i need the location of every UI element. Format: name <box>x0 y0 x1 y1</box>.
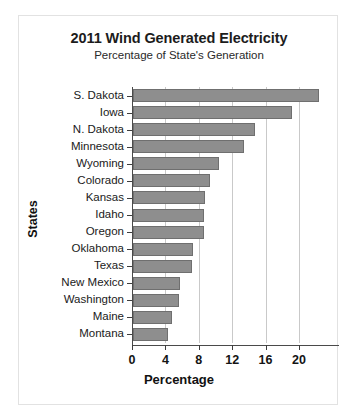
y-axis-tick-label: Oklahoma <box>72 242 124 254</box>
y-axis-tick <box>127 130 132 131</box>
bar <box>133 140 244 153</box>
chart-figure: 2011 Wind Generated Electricity Percenta… <box>18 15 338 405</box>
bar <box>133 191 205 204</box>
y-axis-tick-label: Colorado <box>77 174 124 186</box>
bar <box>133 123 255 136</box>
bar <box>133 328 168 341</box>
chart-title: 2011 Wind Generated Electricity <box>19 30 339 46</box>
y-axis-tick <box>127 198 132 199</box>
y-axis-tick-label: Texas <box>94 259 124 271</box>
y-axis-title: States <box>26 174 40 264</box>
y-axis-tick <box>127 164 132 165</box>
y-axis-tick <box>127 266 132 267</box>
bar <box>133 89 319 102</box>
x-axis-tick-label: 16 <box>251 353 281 367</box>
bar <box>133 260 192 273</box>
y-axis-tick-label: Wyoming <box>76 157 124 169</box>
bar <box>133 226 204 239</box>
chart-subtitle: Percentage of State's Generation <box>19 49 339 61</box>
bar <box>133 294 179 307</box>
y-axis-tick-label: Minnesota <box>71 140 124 152</box>
y-axis-tick <box>127 181 132 182</box>
y-axis-tick <box>127 249 132 250</box>
y-axis-tick-label: Montana <box>79 327 124 339</box>
x-axis-tick <box>132 345 133 350</box>
x-axis-tick <box>299 345 300 350</box>
x-axis-tick <box>232 345 233 350</box>
y-axis-tick-label: Oregon <box>86 225 124 237</box>
x-axis-line <box>132 345 339 346</box>
x-axis-tick <box>266 345 267 350</box>
bar <box>133 209 204 222</box>
y-axis-tick-label: N. Dakota <box>73 123 124 135</box>
x-axis-tick-label: 12 <box>217 353 247 367</box>
y-axis-tick <box>127 283 132 284</box>
bar <box>133 157 219 170</box>
y-axis-tick <box>127 300 132 301</box>
plot-area: S. DakotaIowaN. DakotaMinnesotaWyomingCo… <box>132 87 339 343</box>
y-axis-tick-label: Maine <box>93 310 124 322</box>
bar <box>133 311 172 324</box>
x-axis-title: Percentage <box>19 372 339 387</box>
bar <box>133 174 210 187</box>
y-axis-tick-label: New Mexico <box>61 276 124 288</box>
x-axis-tick-label: 8 <box>184 353 214 367</box>
y-axis-tick-label: Kansas <box>86 191 124 203</box>
y-axis-tick <box>127 317 132 318</box>
y-axis-tick <box>127 96 132 97</box>
bar <box>133 243 193 256</box>
y-axis-tick <box>127 215 132 216</box>
bar <box>133 277 180 290</box>
x-axis-tick <box>199 345 200 350</box>
gridline <box>299 87 300 343</box>
y-axis-tick-label: Idaho <box>95 208 124 220</box>
y-axis-tick-label: Iowa <box>100 106 124 118</box>
bar <box>133 106 292 119</box>
y-axis-tick <box>127 232 132 233</box>
y-axis-tick <box>127 113 132 114</box>
x-axis-tick <box>165 345 166 350</box>
gridline <box>266 87 267 343</box>
x-axis-tick-label: 20 <box>284 353 314 367</box>
y-axis-tick <box>127 147 132 148</box>
y-axis-tick-label: Washington <box>64 293 124 305</box>
y-axis-tick <box>127 334 132 335</box>
x-axis-tick-label: 0 <box>117 353 147 367</box>
x-axis-tick-label: 4 <box>150 353 180 367</box>
y-axis-tick-label: S. Dakota <box>74 89 125 101</box>
